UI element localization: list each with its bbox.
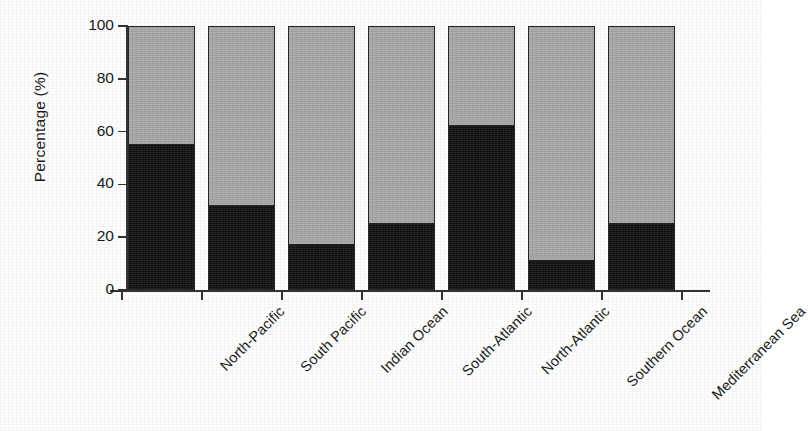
x-tick-2 — [281, 291, 283, 300]
x-tick-7 — [681, 291, 683, 300]
bar-dark-segment — [529, 260, 594, 289]
bar-southern-ocean — [528, 26, 595, 290]
bar-indian-ocean — [288, 26, 355, 290]
y-tick-80 — [118, 78, 127, 80]
bar-north-atlantic — [448, 26, 515, 290]
bar-north-pacific — [128, 26, 195, 290]
plot-area — [128, 26, 690, 290]
bar-dark-segment — [129, 144, 194, 289]
y-tick-label-0: 0 — [74, 280, 114, 298]
x-category-label-south-atlantic: South-Atlantic — [459, 303, 535, 379]
bar-mediterranean-sea — [608, 26, 675, 290]
bar-dark-segment — [289, 244, 354, 289]
bar-dark-segment — [369, 223, 434, 289]
bar-dark-segment — [449, 125, 514, 289]
x-tick-4 — [441, 291, 443, 300]
x-category-label-north-atlantic: North-Atlantic — [538, 303, 612, 377]
x-tick-5 — [521, 291, 523, 300]
y-tick-label-80: 80 — [74, 69, 114, 87]
x-category-label-south-pacific: South Pacific — [297, 303, 369, 375]
y-tick-40 — [118, 184, 127, 186]
bar-dark-segment — [609, 223, 674, 289]
y-axis-title: Percentage (%) — [31, 27, 49, 227]
x-tick-0 — [121, 291, 123, 300]
y-tick-20 — [118, 236, 127, 238]
x-category-label-north-pacific: North-Pacific — [217, 303, 288, 374]
y-tick-label-20: 20 — [74, 227, 114, 245]
y-tick-label-40: 40 — [74, 174, 114, 192]
y-tick-60 — [118, 131, 127, 133]
x-axis-line — [110, 290, 710, 292]
x-category-label-indian-ocean: Indian Ocean — [378, 303, 451, 376]
bar-dark-segment — [209, 205, 274, 289]
y-tick-label-60: 60 — [74, 122, 114, 140]
x-category-label-mediterranean-sea: Mediterranean Sea — [709, 303, 808, 403]
y-tick-label-100: 100 — [74, 16, 114, 34]
x-tick-6 — [601, 291, 603, 300]
x-category-label-southern-ocean: Southern Ocean — [623, 303, 710, 390]
x-tick-1 — [201, 291, 203, 300]
bar-south-atlantic — [368, 26, 435, 290]
y-tick-100 — [118, 25, 127, 27]
bar-south-pacific — [208, 26, 275, 290]
x-tick-3 — [361, 291, 363, 300]
